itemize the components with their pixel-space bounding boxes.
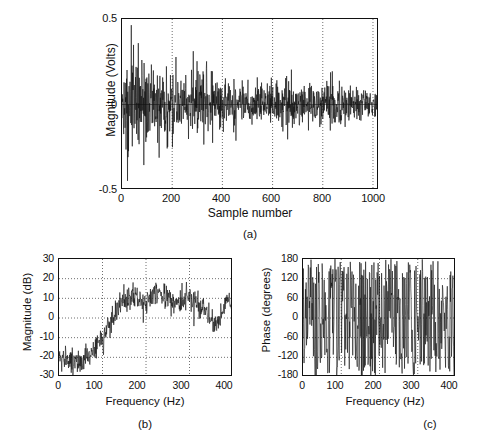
subplot-c-xtick-300: 300 (397, 379, 425, 391)
subplot-a-xtick-0: 0 (106, 192, 136, 204)
subplot-b-ytick-30: 30 (26, 252, 54, 264)
subplot-a-ytick-0: 0.5 (85, 12, 117, 24)
subplot-c-ytick-m120: -120 (260, 349, 298, 361)
subplot-c-xtick-400: 400 (435, 379, 463, 391)
subplot-b-x-axis-title: Frequency (Hz) (85, 395, 205, 407)
subplot-a-caption: (a) (220, 228, 280, 240)
subplot-c-plot-area (302, 258, 455, 376)
subplot-b: Magnitude (dB) 30 20 10 0 -10 -20 -30 0 … (0, 250, 244, 439)
subplot-a-ytick-1: 0 (85, 98, 117, 110)
subplot-a-canvas (122, 19, 378, 189)
subplot-b-plot-area (58, 258, 232, 376)
subplot-c-ytick-120: 120 (266, 271, 298, 283)
subplot-b-series (59, 282, 232, 376)
subplot-b-xtick-400: 400 (210, 379, 238, 391)
subplot-a-xtick-5: 1000 (355, 192, 391, 204)
subplot-b-xtick-300: 300 (167, 379, 195, 391)
subplot-b-ytick-m10: -10 (22, 330, 54, 342)
subplot-c-canvas (303, 259, 455, 376)
subplot-a-xtick-3: 600 (256, 192, 286, 204)
subplot-c-ytick-60: 60 (266, 291, 298, 303)
subplot-a-xtick-2: 400 (206, 192, 236, 204)
subplot-a: Magnitude (Volts) 0.5 0 -0.5 0 200 400 6… (0, 0, 420, 250)
subplot-a-xtick-4: 800 (307, 192, 337, 204)
subplot-b-ytick-m20: -20 (22, 349, 54, 361)
subplot-b-ytick-0: 0 (26, 310, 54, 322)
subplot-a-y-axis-title: Magnitude (Volts) (104, 15, 118, 165)
subplot-c-series (303, 259, 455, 376)
subplot-c-ytick-180: 180 (266, 252, 298, 264)
subplot-a-x-axis-title: Sample number (180, 206, 320, 220)
subplot-c: Phase (degrees) 180 120 60 0 -60 -120 -1… (240, 250, 484, 439)
subplot-c-xtick-100: 100 (321, 379, 349, 391)
figure-three-subplots: Magnitude (Volts) 0.5 0 -0.5 0 200 400 6… (0, 0, 484, 439)
subplot-b-xtick-100: 100 (80, 379, 108, 391)
subplot-b-ytick-10: 10 (26, 291, 54, 303)
subplot-b-xtick-200: 200 (123, 379, 151, 391)
subplot-c-ytick-m60: -60 (262, 330, 298, 342)
subplot-c-xtick-200: 200 (359, 379, 387, 391)
subplot-a-xtick-1: 200 (156, 192, 186, 204)
subplot-a-plot-area (121, 18, 378, 189)
subplot-b-caption: (b) (115, 418, 175, 430)
subplot-b-ytick-20: 20 (26, 271, 54, 283)
subplot-c-x-axis-title: Frequency (Hz) (325, 395, 445, 407)
subplot-b-gridlines (59, 259, 232, 376)
subplot-a-series (122, 25, 378, 181)
subplot-c-caption: (c) (400, 418, 460, 430)
subplot-b-xtick-0: 0 (46, 379, 70, 391)
subplot-c-xtick-0: 0 (290, 379, 314, 391)
subplot-b-canvas (59, 259, 232, 376)
subplot-c-ytick-0: 0 (266, 310, 298, 322)
